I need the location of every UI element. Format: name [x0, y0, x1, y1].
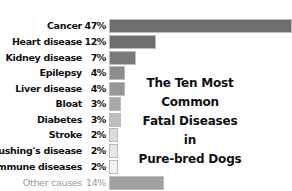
- chart-title-line-1: The Ten Most Common: [138, 74, 242, 112]
- category-label: Kidney disease: [5, 51, 82, 65]
- category-label: Diabetes: [37, 113, 82, 127]
- category-label: Bloat: [56, 97, 82, 111]
- bar-chart: Cancer47%Heart disease12%Kidney disease7…: [0, 0, 292, 191]
- bar: [109, 35, 156, 49]
- value-label: 47%: [84, 19, 106, 33]
- bar: [109, 176, 164, 190]
- bar-row: Cancer47%: [0, 19, 292, 33]
- bar: [109, 19, 292, 33]
- category-label: Cushing's disease: [0, 144, 82, 158]
- category-label: Cancer: [47, 19, 82, 33]
- bar-row: Heart disease12%: [0, 35, 292, 49]
- bar: [109, 97, 121, 111]
- value-label: 4%: [84, 82, 106, 96]
- category-label: Stroke: [49, 128, 82, 142]
- category-label: Other causes: [23, 176, 82, 190]
- chart-title-line-2: Fatal Diseases in: [138, 112, 242, 150]
- category-label: Epilepsy: [40, 66, 83, 80]
- chart-title-line-3: Pure-bred Dogs: [138, 150, 242, 169]
- bar: [109, 144, 118, 158]
- category-label: Liver disease: [15, 82, 82, 96]
- bar: [109, 51, 136, 65]
- bar: [109, 82, 125, 96]
- value-label: 2%: [84, 144, 106, 158]
- value-label: 7%: [84, 51, 106, 65]
- bar-row: Kidney disease7%: [0, 51, 292, 65]
- chart-title: The Ten Most Common Fatal Diseases in Pu…: [138, 74, 242, 169]
- value-label: 3%: [84, 97, 106, 111]
- bar: [109, 66, 125, 80]
- bar: [109, 128, 118, 142]
- value-label: 2%: [84, 160, 106, 174]
- bar-row: Other causes14%: [0, 176, 292, 190]
- value-label: 4%: [84, 66, 106, 80]
- bar: [109, 160, 118, 174]
- value-label: 14%: [84, 176, 106, 190]
- category-label: Immune diseases: [0, 160, 82, 174]
- value-label: 12%: [84, 35, 106, 49]
- category-label: Heart disease: [12, 35, 82, 49]
- bar: [109, 113, 121, 127]
- value-label: 3%: [84, 113, 106, 127]
- value-label: 2%: [84, 128, 106, 142]
